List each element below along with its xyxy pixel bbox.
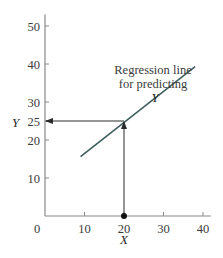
x-tick-label: 10 — [78, 222, 91, 236]
x-tick-label: 40 — [197, 222, 210, 236]
annotation-line-3: Y — [151, 90, 160, 105]
y-tick-label: 40 — [28, 58, 41, 72]
x-variable-label: X — [119, 232, 129, 247]
x-tick-label: 0 — [34, 222, 40, 236]
annotation-line-2: for predicting — [119, 77, 188, 91]
regression-chart: 010203040102025304050 Regression line fo… — [0, 0, 223, 258]
prediction-arrows — [46, 121, 127, 219]
x-value-point — [121, 213, 127, 219]
x-tick-label: 30 — [157, 222, 170, 236]
y-tick-label: 25 — [28, 115, 41, 129]
y-tick-label: 10 — [28, 172, 41, 186]
y-tick-label: 50 — [28, 20, 41, 34]
annotation-labels: Regression line for predicting Y Y X — [12, 63, 192, 247]
annotation-line-1: Regression line — [114, 63, 192, 77]
axes — [45, 15, 211, 216]
y-tick-label: 30 — [28, 96, 41, 110]
y-tick-label: 20 — [28, 134, 41, 148]
y-variable-label: Y — [12, 115, 21, 130]
